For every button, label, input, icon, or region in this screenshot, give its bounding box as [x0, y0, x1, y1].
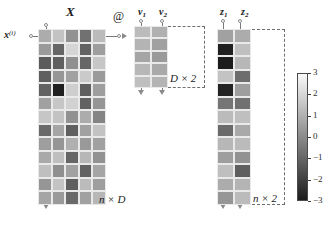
- heatmap-cell: [234, 164, 251, 178]
- heatmap-cell: [38, 83, 52, 97]
- matrix-z-column-label-2: z2: [241, 6, 248, 19]
- heatmap-cell: [134, 63, 151, 75]
- heatmap-cell: [65, 56, 79, 70]
- heatmap-cell: [79, 164, 93, 178]
- heatmap-cell: [38, 29, 52, 43]
- heatmap-cell: [52, 191, 66, 205]
- heatmap-cell: [65, 83, 79, 97]
- heatmap-cell: [217, 97, 234, 111]
- colorbar-tick-mark: [308, 180, 311, 181]
- heatmap-cell: [217, 70, 234, 84]
- heatmap-cell: [38, 191, 52, 205]
- heatmap-cell: [52, 83, 66, 97]
- heatmap-cell: [79, 137, 93, 151]
- heatmap-cell: [134, 76, 151, 88]
- colorbar-tick-mark: [308, 73, 311, 74]
- heatmap-cell: [234, 29, 251, 43]
- heatmap-cell: [79, 151, 93, 165]
- heatmap-cell: [234, 178, 251, 192]
- heatmap-cell: [52, 164, 66, 178]
- heatmap-cell: [217, 56, 234, 70]
- heatmap-cell: [52, 137, 66, 151]
- colorbar-tick-label: −3: [313, 195, 323, 205]
- heatmap-cell: [79, 70, 93, 84]
- heatmap-cell: [52, 151, 66, 165]
- matrix-x-row-label-superscript: (i): [9, 29, 16, 37]
- heatmap-cell: [234, 97, 251, 111]
- v1-subscript: 1: [142, 11, 146, 19]
- colorbar-tick-label: 0: [313, 131, 318, 141]
- colorbar-tick-label: −2: [313, 174, 323, 184]
- heatmap-cell: [217, 164, 234, 178]
- heatmap-cell: [79, 56, 93, 70]
- row-indicator-arrow-icon: [122, 33, 127, 39]
- heatmap-cell: [38, 43, 52, 57]
- heatmap-cell: [234, 191, 251, 205]
- heatmap-cell: [234, 43, 251, 57]
- heatmap-cell: [65, 124, 79, 138]
- matrix-z-heatmap: [217, 29, 251, 205]
- heatmap-cell: [92, 137, 106, 151]
- heatmap-cell: [134, 38, 151, 50]
- heatmap-cell: [134, 51, 151, 63]
- heatmap-cell: [92, 178, 106, 192]
- heatmap-cell: [79, 178, 93, 192]
- heatmap-cell: [217, 178, 234, 192]
- heatmap-cell: [151, 63, 168, 75]
- heatmap-cell: [217, 124, 234, 138]
- colorbar-tick-label: 1: [313, 110, 318, 120]
- heatmap-cell: [38, 151, 52, 165]
- heatmap-cell: [65, 178, 79, 192]
- heatmap-cell: [92, 151, 106, 165]
- heatmap-cell: [217, 151, 234, 165]
- heatmap-cell: [151, 51, 168, 63]
- colorbar-tick-mark: [308, 158, 311, 159]
- heatmap-cell: [38, 164, 52, 178]
- matrix-z-column-label-1: z1: [220, 6, 227, 19]
- heatmap-cell: [38, 97, 52, 111]
- heatmap-cell: [52, 124, 66, 138]
- v2-subscript: 2: [163, 11, 167, 19]
- heatmap-cell: [65, 97, 79, 111]
- heatmap-cell: [52, 70, 66, 84]
- heatmap-cell: [38, 178, 52, 192]
- heatmap-cell: [79, 97, 93, 111]
- colorbar-tick-mark: [308, 201, 311, 202]
- heatmap-cell: [92, 124, 106, 138]
- heatmap-cell: [217, 191, 234, 205]
- heatmap-cell: [79, 29, 93, 43]
- matrix-multiplication-figure: X x(i) n × D @ v1 v2 D × 2 z1 z2 n × 2: [0, 0, 332, 232]
- heatmap-cell: [52, 29, 66, 43]
- heatmap-cell: [79, 124, 93, 138]
- heatmap-cell: [151, 26, 168, 38]
- heatmap-cell: [52, 178, 66, 192]
- matrix-x-shape-label: n × D: [99, 193, 125, 205]
- heatmap-cell: [38, 110, 52, 124]
- matrix-v-column-label-2: v2: [159, 6, 167, 19]
- heatmap-cell: [65, 191, 79, 205]
- heatmap-cell: [65, 43, 79, 57]
- heatmap-cell: [234, 70, 251, 84]
- heatmap-cell: [151, 38, 168, 50]
- heatmap-cell: [65, 110, 79, 124]
- heatmap-cell: [52, 43, 66, 57]
- heatmap-cell: [38, 137, 52, 151]
- heatmap-cell: [217, 43, 234, 57]
- colorbar: [297, 73, 308, 201]
- matmul-operator: @: [113, 9, 124, 24]
- heatmap-cell: [65, 29, 79, 43]
- matrix-x-heatmap: [38, 29, 106, 205]
- heatmap-cell: [92, 164, 106, 178]
- v1-indicator-arrow-icon: [138, 90, 144, 95]
- heatmap-cell: [79, 43, 93, 57]
- heatmap-cell: [92, 97, 106, 111]
- matrix-v-shape-label: D × 2: [170, 72, 196, 84]
- colorbar-tick-label: 3: [313, 67, 318, 77]
- heatmap-cell: [92, 56, 106, 70]
- heatmap-cell: [52, 97, 66, 111]
- heatmap-cell: [65, 137, 79, 151]
- heatmap-cell: [234, 137, 251, 151]
- matrix-x-title: X: [66, 4, 75, 20]
- z1-subscript: 1: [224, 11, 228, 19]
- heatmap-cell: [79, 191, 93, 205]
